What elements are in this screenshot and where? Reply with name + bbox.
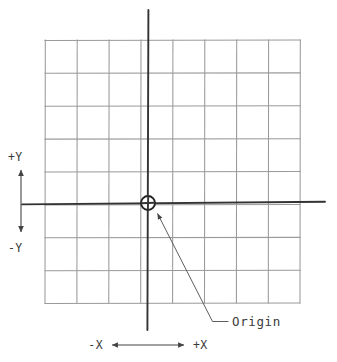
y-axis-negative-label: -Y — [8, 241, 23, 255]
y-axis-positive-label: +Y — [8, 150, 23, 164]
coordinate-grid-diagram: Origin +Y -Y -X +X — [0, 0, 337, 362]
axes — [22, 10, 325, 330]
y-axis-line — [147, 10, 148, 330]
diagram-canvas: Origin +Y -Y -X +X — [0, 0, 337, 362]
x-axis-positive-label: +X — [193, 338, 208, 352]
grid-lines — [45, 40, 300, 303]
origin-leader-line — [158, 214, 229, 322]
x-axis-negative-label: -X — [88, 338, 103, 352]
origin-label: Origin — [232, 314, 281, 329]
